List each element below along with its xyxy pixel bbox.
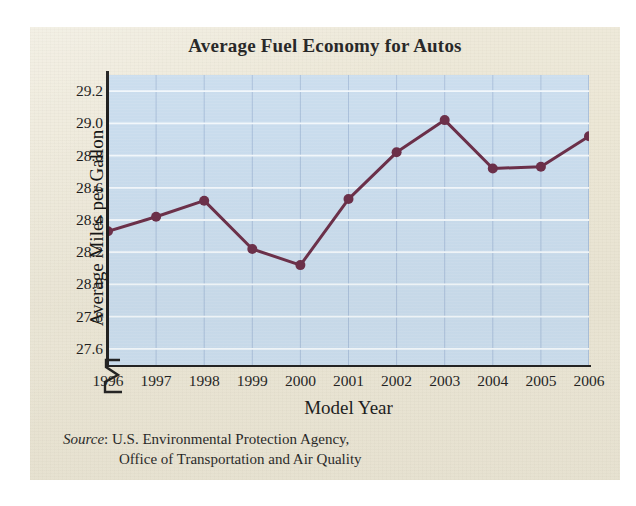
y-axis-line (106, 71, 109, 367)
source-note: Source: U.S. Environmental Protection Ag… (63, 429, 603, 470)
plot-area (108, 75, 589, 365)
source-label: Source (63, 431, 104, 447)
data-point-marker (199, 196, 209, 206)
y-tick-label: 28.6 (63, 180, 103, 196)
x-axis-tick-labels: 1996199719981999200020012002200320042005… (108, 372, 589, 396)
y-tick-label: 29.0 (63, 116, 103, 132)
x-axis-title: Model Year (108, 397, 589, 419)
scanned-page-sheet: Average Fuel Economy for Autos Average M… (30, 27, 620, 480)
data-point-marker (488, 163, 498, 173)
data-point-marker (247, 244, 257, 254)
y-tick-label: 28.2 (63, 244, 103, 260)
source-line-2: Office of Transportation and Air Quality (119, 449, 603, 469)
data-point-marker (344, 194, 354, 204)
data-point-marker (440, 115, 450, 125)
data-point-marker (536, 162, 546, 172)
y-axis-tick-labels: 29.229.028.828.628.428.228.027.827.6 (63, 75, 103, 365)
data-point-marker (151, 212, 161, 222)
line-chart-figure: Average Miles per Gallon 29.229.028.828.… (30, 27, 620, 480)
data-point-marker (108, 226, 113, 236)
y-tick-label: 28.4 (63, 212, 103, 228)
x-axis-line (108, 365, 591, 367)
source-separator: : (104, 431, 108, 447)
y-tick-label: 29.2 (63, 83, 103, 99)
y-tick-label: 27.6 (63, 341, 103, 357)
source-line-1: U.S. Environmental Protection Agency, (112, 431, 349, 447)
y-tick-label: 28.8 (63, 148, 103, 164)
chart-plot-svg (108, 75, 589, 365)
y-tick-label: 27.8 (63, 309, 103, 325)
data-point-marker (392, 147, 402, 157)
x-tick-label: 2006 (561, 372, 617, 390)
y-tick-label: 28.0 (63, 277, 103, 293)
data-point-marker (295, 260, 305, 270)
